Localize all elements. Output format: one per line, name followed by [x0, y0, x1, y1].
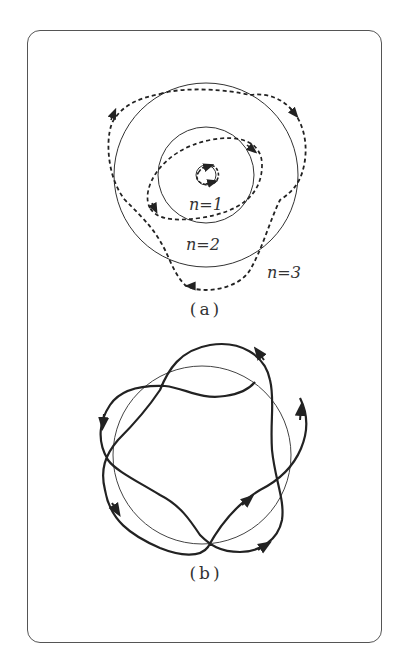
trajectory-n1 — [197, 165, 218, 184]
trajectory-b — [101, 344, 307, 555]
panel-b-diagram — [101, 344, 307, 555]
label-n3: n=3 — [267, 263, 301, 282]
trajectory-n3 — [108, 89, 305, 290]
caption-b: (b) — [189, 563, 222, 583]
label-n2: n=2 — [186, 235, 220, 254]
label-n1: n=1 — [189, 195, 223, 214]
orbit-circle-b — [113, 366, 291, 544]
caption-a: (a) — [190, 299, 222, 319]
panel-a-diagram: n=1 n=2 n=3 — [108, 83, 305, 290]
